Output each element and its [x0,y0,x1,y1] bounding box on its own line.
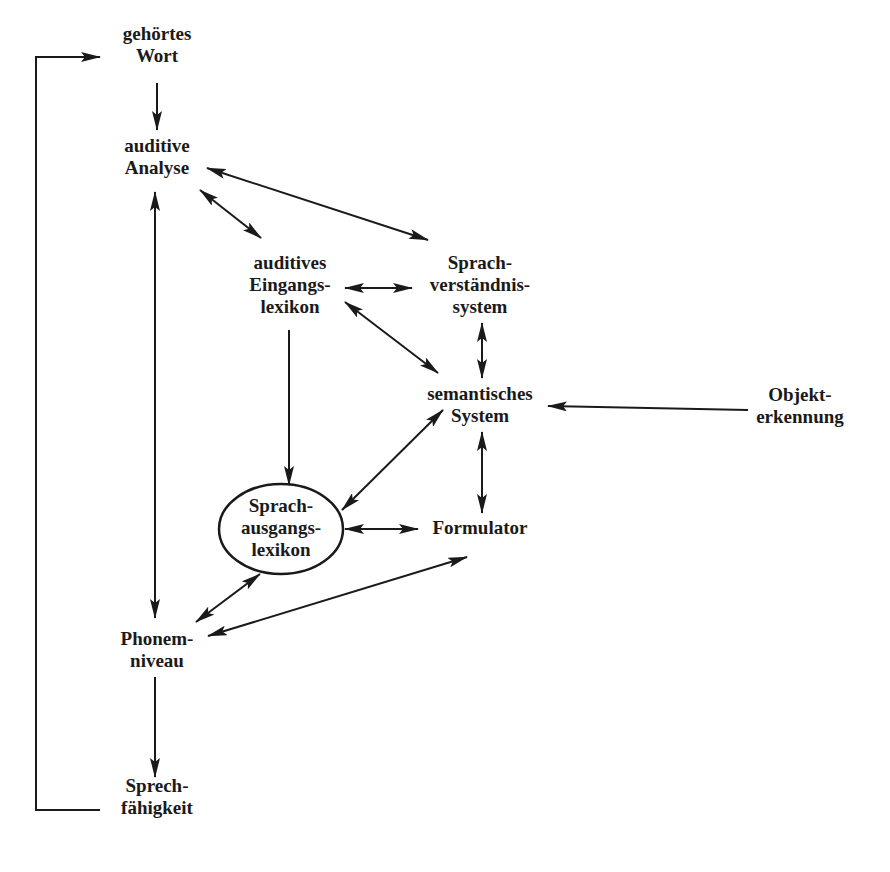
node-phonemniveau: Phonem- niveau [121,628,194,672]
edge-analyse-eingangslexikon [200,190,261,238]
node-label-line: verständnis- [430,274,530,296]
node-label-line: Analyse [124,157,189,179]
node-semantisches-system: semantisches System [427,383,533,427]
node-gehoertes-wort: gehörtes Wort [123,23,192,67]
node-label-line: Eingangs- [249,274,330,296]
node-label-line: gehörtes [123,23,192,45]
node-sprechfaehigkeit: Sprech- fähigkeit [121,775,193,819]
node-label-line: niveau [121,650,194,672]
edge-feedback-loop [36,57,100,810]
node-label-line: fähigkeit [121,797,193,819]
edge-ausgang-phonem [196,574,260,622]
node-label-line: lexikon [249,296,330,318]
node-sprachausgangslexikon: Sprach- ausgangs- lexikon [241,495,321,561]
edge-eingang-semantisch [345,302,438,373]
node-label-line: Objekt- [756,384,844,406]
node-label-line: Sprach- [430,252,530,274]
edge-objekt-semantisch [548,406,748,410]
node-label-line: auditive [124,135,189,157]
node-label-line: semantisches [427,383,533,405]
node-auditive-analyse: auditive Analyse [124,135,189,179]
node-formulator: Formulator [433,517,528,539]
node-label-line: erkennung [756,406,844,428]
node-label-line: ausgangs- [241,517,321,539]
node-label-line: Wort [123,45,192,67]
node-label-line: auditives [249,252,330,274]
node-label-line: lexikon [241,539,321,561]
node-label-line: system [430,296,530,318]
node-label-line: Sprach- [241,495,321,517]
node-auditives-eingangslexikon: auditives Eingangs- lexikon [249,252,330,318]
diagram-canvas [0,0,890,872]
edge-phonem-formulator [208,557,467,636]
node-label-line: System [427,405,533,427]
node-label-line: Phonem- [121,628,194,650]
edge-analyse-verstaendnis [207,168,428,240]
node-sprachverstaendnissystem: Sprach- verständnis- system [430,252,530,318]
node-label-line: Sprech- [121,775,193,797]
node-objekterkennung: Objekt- erkennung [756,384,844,428]
node-label-line: Formulator [433,517,528,539]
